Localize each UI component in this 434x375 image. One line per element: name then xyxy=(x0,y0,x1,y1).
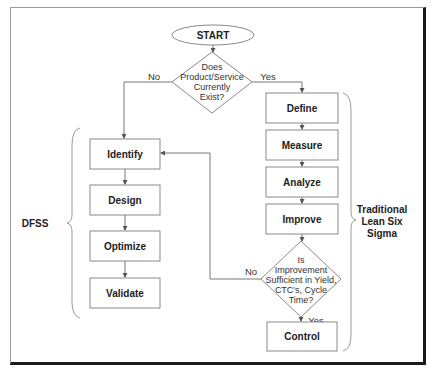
control-label: Control xyxy=(284,331,320,342)
decision2-line-3: Sufficient in Yield, xyxy=(266,275,337,285)
decision2-no-label: No xyxy=(245,266,257,277)
measure-label: Measure xyxy=(282,140,323,151)
validate-label: Validate xyxy=(106,288,144,299)
lss-group-label-line-2: Lean Six xyxy=(361,216,403,227)
decision1-no-label: No xyxy=(148,71,160,82)
decision-product-exists: Does Product/Service Currently Exist? xyxy=(172,52,252,113)
step-improve: Improve xyxy=(266,204,338,234)
step-analyze: Analyze xyxy=(266,167,338,197)
decision1-yes-label: Yes xyxy=(260,71,276,82)
lss-group-label-line-3: Sigma xyxy=(367,228,397,239)
identify-label: Identify xyxy=(107,149,143,160)
step-validate: Validate xyxy=(90,278,160,308)
decision1-line-3: Currently xyxy=(194,82,231,92)
arrow-no-to-identify xyxy=(124,82,172,138)
improve-label: Improve xyxy=(283,214,322,225)
decision2-line-5: Time? xyxy=(289,295,314,305)
decision2-line-1: Is xyxy=(297,255,305,265)
decision2-line-2: Improvement xyxy=(275,265,328,275)
step-measure: Measure xyxy=(266,130,338,160)
decision1-line-4: Exist? xyxy=(200,92,225,102)
decision2-line-4: CTC's, Cycle xyxy=(275,285,327,295)
define-label: Define xyxy=(287,103,318,114)
start-node: START xyxy=(172,25,254,45)
arrow-yes-to-define xyxy=(252,82,302,92)
start-label: START xyxy=(197,30,230,41)
step-optimize: Optimize xyxy=(90,231,160,261)
flowchart: START Does Product/Service Currently Exi… xyxy=(0,0,434,375)
step-design: Design xyxy=(90,185,160,215)
optimize-label: Optimize xyxy=(104,241,147,252)
dfss-group-label: DFSS xyxy=(22,218,49,229)
step-identify: Identify xyxy=(90,139,160,169)
lss-brace xyxy=(343,93,356,351)
arrow-no-back-to-identify xyxy=(161,153,261,279)
decision-improvement-sufficient: Is Improvement Sufficient in Yield, CTC'… xyxy=(261,241,341,317)
decision1-line-2: Product/Service xyxy=(180,72,244,82)
design-label: Design xyxy=(108,195,141,206)
lss-group-label-line-1: Traditional xyxy=(357,204,408,215)
decision1-line-1: Does xyxy=(201,62,223,72)
analyze-label: Analyze xyxy=(283,177,321,188)
step-control: Control xyxy=(267,322,337,351)
step-define: Define xyxy=(266,93,338,123)
dfss-brace xyxy=(67,128,80,318)
